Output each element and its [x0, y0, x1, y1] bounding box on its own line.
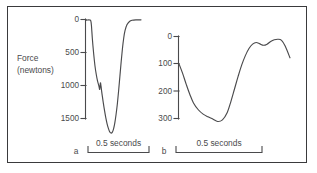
panel-a-tick-label-1000: 1000: [61, 81, 80, 90]
panel-a-tick-label-500: 500: [65, 48, 79, 57]
panel-b-tick-label-100: 100: [158, 59, 172, 68]
panel-a-scale-label: 0.5 seconds: [96, 138, 141, 148]
figure-root: Force (newtons) 0 500 1000 1500 a 0.5 se…: [0, 0, 317, 173]
panel-b-tick-label-300: 300: [158, 114, 172, 123]
panel-a-tick-label-0: 0: [74, 15, 79, 24]
y-axis-title-line2: (newtons): [17, 65, 54, 75]
panel-b-tick-label-0: 0: [167, 32, 172, 41]
panel-b-scale-label: 0.5 seconds: [196, 138, 241, 148]
panel-a: Force (newtons) 0 500 1000 1500 a 0.5 se…: [17, 15, 149, 156]
force-time-chart: Force (newtons) 0 500 1000 1500 a 0.5 se…: [0, 0, 317, 173]
panel-b-force-trace: [179, 39, 290, 121]
panel-b-letter: b: [162, 146, 167, 156]
panel-b: 0 100 200 300 b 0.5 seconds: [158, 32, 290, 156]
panel-a-force-trace: [86, 20, 141, 133]
panel-a-tick-label-1500: 1500: [61, 114, 80, 123]
panel-a-letter: a: [74, 146, 79, 156]
panel-b-tick-label-200: 200: [158, 87, 172, 96]
y-axis-title-line1: Force: [17, 53, 39, 63]
